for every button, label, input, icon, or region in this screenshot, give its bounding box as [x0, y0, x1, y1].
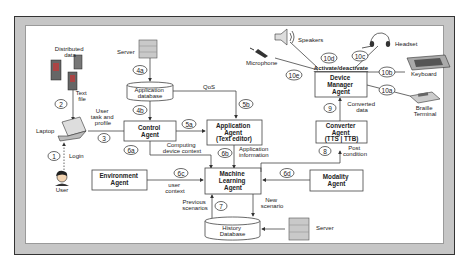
microphone-label: Microphone — [246, 60, 278, 66]
login-label: Login — [69, 153, 84, 159]
step-6c-marker: 6c — [174, 169, 188, 178]
headset-label: Headset — [395, 41, 418, 47]
svg-text:10e: 10e — [289, 72, 300, 79]
control-agent-label: Control Agent — [138, 124, 162, 139]
user-task-profile-label: User task and profile — [91, 108, 115, 126]
history-database-label: History Database — [220, 225, 246, 237]
step-2-marker: 2 — [55, 100, 67, 109]
server-bottom-label: Server — [316, 225, 334, 231]
previous-scenarios-label: Previous scenarios — [182, 199, 208, 211]
step-1-marker: 1 — [48, 152, 60, 161]
svg-text:8: 8 — [323, 148, 327, 155]
architecture-diagram: Distributed data Text file 2 Laptop User… — [0, 0, 471, 267]
svg-text:6c: 6c — [178, 170, 186, 177]
step-6d-marker: 6d — [280, 169, 294, 178]
svg-text:7: 7 — [219, 203, 223, 210]
activate-deactivate-label: Activate/deactivate — [314, 65, 369, 71]
user-context-label: user context — [165, 182, 185, 194]
step-7-marker: 7 — [215, 202, 227, 211]
svg-text:4b: 4b — [136, 107, 144, 114]
svg-text:5a: 5a — [185, 121, 193, 128]
link-speakers — [290, 42, 318, 68]
step-6b-marker: 6b — [218, 149, 232, 158]
user-avatar-icon — [55, 171, 69, 186]
step-3-marker: 3 — [98, 134, 110, 143]
step-10b-marker: 10b — [379, 67, 395, 77]
svg-text:5b: 5b — [242, 101, 250, 108]
svg-text:9: 9 — [328, 105, 332, 112]
keyboard-icon — [407, 55, 450, 70]
text-file-label: Text file — [76, 90, 89, 102]
laptop-icon — [58, 117, 86, 141]
svg-text:6a: 6a — [127, 147, 135, 154]
svg-text:2: 2 — [59, 101, 63, 108]
svg-text:10d: 10d — [324, 55, 335, 62]
step-8-marker: 8 — [319, 147, 331, 156]
user-label: User — [56, 187, 69, 193]
svg-text:1: 1 — [52, 153, 56, 160]
step-4a-marker: 4a — [133, 66, 147, 75]
braille-terminal-icon — [410, 92, 440, 103]
braille-terminal-label: Braille Terminal — [414, 105, 437, 117]
new-scenario-label: New scenario — [261, 197, 284, 209]
server-bottom-icon — [289, 218, 309, 240]
computing-device-context-label: Computing device context — [163, 142, 202, 154]
microphone-icon — [250, 48, 268, 58]
step-5b-marker: 5b — [239, 100, 253, 109]
laptop-label: Laptop — [36, 128, 55, 134]
step-10c-marker: 10c — [352, 51, 368, 61]
link-microphone — [275, 58, 318, 70]
svg-text:10b: 10b — [382, 69, 393, 76]
application-information-label: Application information — [239, 146, 270, 158]
svg-text:6d: 6d — [283, 170, 291, 177]
step-10a-marker: 10a — [379, 85, 395, 95]
step-10d-marker: 10d — [321, 53, 337, 63]
speakers-label: Speakers — [298, 37, 323, 43]
keyboard-label: Keyboard — [411, 71, 437, 77]
qos-label: QoS — [203, 84, 215, 90]
svg-text:6b: 6b — [221, 150, 229, 157]
step-6a-marker: 6a — [124, 146, 138, 155]
headset-icon — [362, 33, 390, 48]
application-database-label: Application database — [134, 87, 165, 99]
svg-text:4a: 4a — [136, 67, 144, 74]
step-9-marker: 9 — [324, 104, 336, 113]
svg-text:10c: 10c — [355, 53, 366, 60]
arrow-qos — [173, 91, 236, 118]
converted-data-label: Converted data — [347, 101, 376, 113]
distributed-data-servers-icon — [51, 55, 82, 90]
svg-text:3: 3 — [102, 135, 106, 142]
step-5a-marker: 5a — [182, 120, 196, 129]
server-top-icon — [139, 40, 157, 58]
post-condition-label: Post condition — [343, 145, 367, 157]
server-top-label: Server — [117, 49, 135, 55]
step-4b-marker: 4b — [133, 106, 147, 115]
step-10e-marker: 10e — [286, 70, 302, 80]
svg-text:10a: 10a — [382, 87, 393, 94]
